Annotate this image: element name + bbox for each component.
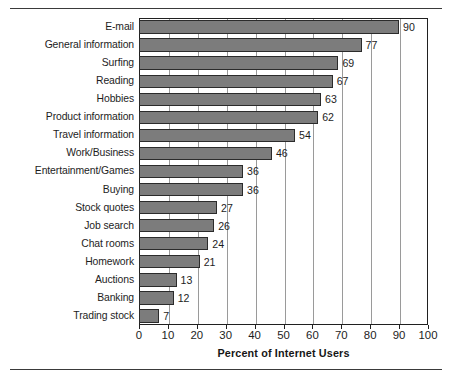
bar-row: Trading stock7: [0, 307, 452, 325]
bar: [139, 56, 338, 69]
bar: [139, 291, 174, 304]
bar-row: Hobbies63: [0, 90, 452, 108]
bar: [139, 165, 243, 178]
category-label: Work/Business: [0, 144, 134, 162]
bar-value-label: 77: [362, 36, 378, 54]
bar: [139, 309, 159, 322]
category-label: Product information: [0, 108, 134, 126]
category-label: E-mail: [0, 18, 134, 36]
bar-value-label: 90: [399, 18, 415, 36]
category-label: Homework: [0, 253, 134, 271]
category-label: General information: [0, 36, 134, 54]
bar: [139, 237, 208, 250]
bar-value-label: 36: [243, 181, 259, 199]
bar: [139, 93, 321, 106]
bar-track: 46: [139, 144, 428, 162]
bar-row: Banking12: [0, 289, 452, 307]
bar-row: Buying36: [0, 181, 452, 199]
category-label: Auctions: [0, 271, 134, 289]
bar-row: Job search26: [0, 217, 452, 235]
bar-track: 7: [139, 307, 428, 325]
bar-track: 36: [139, 181, 428, 199]
bottom-horizontal-rule: [10, 369, 442, 370]
bar-value-label: 12: [174, 289, 190, 307]
bar: [139, 201, 217, 214]
category-label: Travel information: [0, 126, 134, 144]
bar-track: 24: [139, 235, 428, 253]
category-label: Banking: [0, 289, 134, 307]
bar: [139, 38, 362, 51]
bar-track: 54: [139, 126, 428, 144]
bar: [139, 111, 318, 124]
bar-value-label: 7: [159, 307, 169, 325]
category-label: Chat rooms: [0, 235, 134, 253]
bar: [139, 75, 333, 88]
x-axis-title: Percent of Internet Users: [139, 347, 428, 359]
bar: [139, 147, 272, 160]
bar-row: E-mail90: [0, 18, 452, 36]
bar: [139, 20, 399, 33]
bar-value-label: 24: [208, 235, 224, 253]
category-label: Reading: [0, 72, 134, 90]
bar-row: Homework21: [0, 253, 452, 271]
bar-value-label: 21: [200, 253, 216, 271]
category-label: Stock quotes: [0, 199, 134, 217]
bar-track: 21: [139, 253, 428, 271]
category-label: Buying: [0, 181, 134, 199]
bar: [139, 255, 200, 268]
bar: [139, 219, 214, 232]
bar-rows: E-mail90General information77Surfing69Re…: [0, 18, 452, 325]
bar-row: Travel information54: [0, 126, 452, 144]
bar-row: Product information62: [0, 108, 452, 126]
category-label: Entertainment/Games: [0, 162, 134, 180]
bar-row: Stock quotes27: [0, 199, 452, 217]
bar-track: 13: [139, 271, 428, 289]
bar: [139, 183, 243, 196]
category-label: Hobbies: [0, 90, 134, 108]
bar-value-label: 27: [217, 199, 233, 217]
bar-row: Work/Business46: [0, 144, 452, 162]
bar-track: 69: [139, 54, 428, 72]
bar-row: Surfing69: [0, 54, 452, 72]
bar-row: Reading67: [0, 72, 452, 90]
bar-track: 27: [139, 199, 428, 217]
bar-track: 62: [139, 108, 428, 126]
bar-row: Chat rooms24: [0, 235, 452, 253]
bar-row: General information77: [0, 36, 452, 54]
bar-track: 77: [139, 36, 428, 54]
bar-track: 26: [139, 217, 428, 235]
bar-row: Entertainment/Games36: [0, 162, 452, 180]
bar-chart: E-mail90General information77Surfing69Re…: [0, 0, 452, 375]
category-label: Job search: [0, 217, 134, 235]
bar: [139, 129, 295, 142]
bar-value-label: 63: [321, 90, 337, 108]
bar-row: Auctions13: [0, 271, 452, 289]
bar-value-label: 36: [243, 162, 259, 180]
bar-value-label: 54: [295, 126, 311, 144]
category-label: Surfing: [0, 54, 134, 72]
bar-value-label: 46: [272, 144, 288, 162]
bar-value-label: 26: [214, 217, 230, 235]
x-tick-label-100: 100: [408, 329, 448, 341]
bar-track: 12: [139, 289, 428, 307]
category-label: Trading stock: [0, 307, 134, 325]
bar-value-label: 13: [177, 271, 193, 289]
bar-value-label: 62: [318, 108, 334, 126]
bar-track: 63: [139, 90, 428, 108]
x-axis-tick-labels: 0102030405060708090100: [139, 329, 428, 345]
bar-track: 36: [139, 162, 428, 180]
bar-value-label: 69: [338, 54, 354, 72]
bar-track: 67: [139, 72, 428, 90]
bar: [139, 273, 177, 286]
bar-track: 90: [139, 18, 428, 36]
bar-value-label: 67: [333, 72, 349, 90]
